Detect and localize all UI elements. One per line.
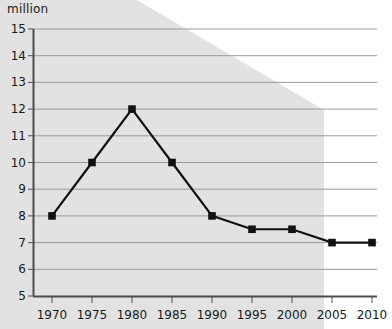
- data-point-1975[interactable]: [88, 159, 96, 167]
- chart-screenshot: million 15 14 13 12 11 10 9 8 7 6 5 1970…: [0, 0, 392, 329]
- data-point-1990[interactable]: [208, 212, 216, 220]
- gridlines: [33, 29, 377, 269]
- data-point-2000[interactable]: [288, 225, 296, 233]
- x-axis-tick-label-1995: 1995: [232, 308, 272, 322]
- data-line: [52, 109, 372, 243]
- y-axis-tick-label-15: 15: [0, 22, 26, 36]
- data-point-2005[interactable]: [328, 239, 336, 247]
- x-axis-tick-label-1990: 1990: [192, 308, 232, 322]
- y-axis-tick-label-10: 10: [0, 156, 26, 170]
- data-point-2010[interactable]: [368, 239, 376, 247]
- y-axis-ticks: [28, 29, 33, 296]
- data-point-1970[interactable]: [48, 212, 56, 220]
- y-axis-tick-label-11: 11: [0, 129, 26, 143]
- y-axis-tick-label-8: 8: [0, 209, 26, 223]
- data-point-1980[interactable]: [128, 105, 136, 113]
- data-markers: [48, 105, 376, 246]
- line-chart: [0, 0, 392, 329]
- x-axis-tick-label-1980: 1980: [112, 308, 152, 322]
- y-axis-tick-label-14: 14: [0, 49, 26, 63]
- y-axis-tick-label-12: 12: [0, 102, 26, 116]
- x-axis-tick-label-2010: 2010: [352, 308, 392, 322]
- x-axis-tick-label-2005: 2005: [312, 308, 352, 322]
- data-point-1985[interactable]: [168, 159, 176, 167]
- y-axis-unit-label: million: [7, 2, 48, 16]
- y-axis-tick-label-13: 13: [0, 75, 26, 89]
- data-point-1995[interactable]: [248, 225, 256, 233]
- x-axis-tick-label-1970: 1970: [32, 308, 72, 322]
- x-axis-tick-label-1985: 1985: [152, 308, 192, 322]
- y-axis-tick-label-7: 7: [0, 236, 26, 250]
- x-axis-tick-label-1975: 1975: [72, 308, 112, 322]
- y-axis-tick-label-6: 6: [0, 262, 26, 276]
- y-axis-tick-label-5: 5: [0, 289, 26, 303]
- x-axis-tick-label-2000: 2000: [272, 308, 312, 322]
- y-axis-tick-label-9: 9: [0, 182, 26, 196]
